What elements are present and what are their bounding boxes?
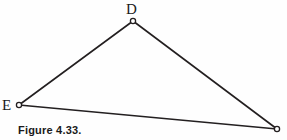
triangle-diagram: [0, 0, 287, 140]
figure-caption: Figure 4.33.: [18, 124, 82, 136]
vertex-marker-d: [130, 18, 135, 23]
vertex-label-e: E: [2, 98, 11, 113]
vertex-label-d: D: [126, 2, 137, 17]
figure-container: D E Figure 4.33.: [0, 0, 287, 140]
vertex-marker-e: [16, 102, 21, 107]
vertex-marker-c: [274, 126, 279, 131]
triangle-vertices: [16, 18, 279, 131]
edge-D-C: [133, 21, 277, 129]
triangle-edges: [19, 21, 277, 129]
edge-E-D: [19, 21, 133, 105]
